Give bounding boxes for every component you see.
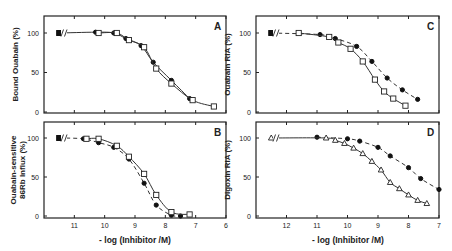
x-tick-label: 12	[283, 222, 291, 229]
data-point-open-square	[327, 34, 332, 39]
data-point-filled-circle	[376, 145, 380, 149]
plot-frame	[44, 16, 226, 113]
y-axis-label: Ouabain-sensitive86Rb Influx (%)	[9, 135, 27, 204]
series-curve	[271, 138, 427, 204]
data-point-open-square	[154, 66, 159, 71]
data-point-open-square	[96, 30, 101, 35]
x-tick-label: 7	[437, 222, 441, 229]
x-tick-label: 9	[133, 222, 137, 229]
data-point-open-square	[382, 89, 387, 94]
y-tick-label: 50	[243, 174, 251, 181]
data-point-filled-circle	[419, 176, 423, 180]
data-point-filled-circle	[400, 88, 404, 92]
series-curve	[271, 33, 417, 99]
y-tick-label: 100	[239, 135, 251, 142]
data-point-open-square	[360, 59, 365, 64]
x-tick-label: 7	[194, 222, 198, 229]
y-tick-label: 50	[243, 69, 251, 76]
y-tick-label: 0	[35, 213, 39, 220]
y-tick-label: 50	[31, 174, 39, 181]
data-point-open-square	[372, 77, 377, 82]
x-tick-label: 8	[163, 222, 167, 229]
data-point-filled-circle	[385, 76, 389, 80]
data-point-open-square	[154, 192, 159, 197]
panel-letter: A	[214, 21, 221, 32]
x-tick-label: 6	[224, 222, 228, 229]
plot-frame	[256, 16, 439, 113]
plot-frame	[44, 122, 226, 218]
y-tick-label: 0	[247, 109, 251, 116]
data-point-filled-circle	[437, 187, 441, 191]
series-curve	[59, 32, 189, 98]
x-tick-label: 11	[313, 222, 320, 229]
data-point-open-square	[211, 104, 216, 109]
panel-letter: D	[427, 127, 434, 138]
x-tick-label: 11	[71, 222, 78, 229]
panel-a: 050100Bound Ouabain (%)A	[11, 16, 226, 116]
data-point-open-square	[142, 45, 147, 50]
data-point-filled-circle	[388, 154, 392, 158]
x-tick-label: 9	[376, 222, 380, 229]
y-tick-label: 100	[27, 30, 39, 37]
y-axis-label: Digoxin RIA (%)	[223, 140, 232, 200]
series-curve	[59, 138, 180, 216]
data-point-open-square	[296, 30, 301, 35]
y-tick-label: 100	[27, 135, 39, 142]
data-point-open-square	[126, 154, 131, 159]
data-point-open-square	[336, 40, 341, 45]
data-point-open-square	[126, 38, 131, 43]
data-point-filled-circle	[416, 97, 420, 101]
data-point-filled-circle	[355, 44, 359, 48]
data-point-open-square	[391, 96, 396, 101]
data-point-open-square	[348, 46, 353, 51]
series-curve	[86, 138, 189, 214]
data-point-filled-circle	[370, 59, 374, 63]
panel-letter: C	[427, 21, 434, 32]
data-point-filled-circle	[406, 166, 410, 170]
data-point-open-triangle	[360, 151, 366, 156]
data-point-open-square	[84, 136, 89, 141]
x-axis-title-left: - log (Inhibitor /M)	[99, 235, 171, 245]
data-point-open-square	[142, 171, 147, 176]
data-point-filled-circle	[345, 137, 349, 141]
panel-letter: B	[214, 127, 221, 138]
x-tick-label: 8	[407, 222, 411, 229]
data-point-open-square	[114, 143, 119, 148]
data-point-open-triangle	[397, 186, 403, 191]
data-point-open-square	[187, 212, 192, 217]
data-point-filled-circle	[358, 139, 362, 143]
y-axis-label: Ouabain RIA (%)	[223, 33, 232, 96]
figure: 050100Bound Ouabain (%)A 11109876050100O…	[0, 0, 452, 251]
x-tick-label: 10	[101, 222, 109, 229]
data-point-filled-square	[57, 136, 62, 141]
y-tick-label: 100	[239, 30, 251, 37]
panel-b: 11109876050100Ouabain-sensitive86Rb Infl…	[9, 122, 228, 229]
data-point-open-square	[403, 103, 408, 108]
data-point-open-square	[190, 98, 195, 103]
data-point-filled-circle	[142, 181, 146, 185]
data-point-open-square	[169, 210, 174, 215]
data-point-open-square	[169, 81, 174, 86]
y-tick-label: 50	[31, 69, 39, 76]
y-tick-label: 0	[35, 109, 39, 116]
panel-c: 050100Ouabain RIA (%)C	[223, 16, 439, 116]
data-point-open-square	[96, 136, 101, 141]
y-tick-label: 0	[247, 213, 251, 220]
x-axis-title-right: - log (Inhibitor /M)	[312, 235, 384, 245]
data-point-open-square	[114, 30, 119, 35]
data-point-open-triangle	[406, 192, 412, 197]
data-point-filled-circle	[154, 203, 158, 207]
y-axis-label: Bound Ouabain (%)	[11, 27, 20, 102]
data-point-filled-square	[57, 31, 62, 36]
series-curve	[299, 33, 406, 106]
data-point-open-triangle	[351, 145, 357, 150]
panel-d: 121110987050100Digoxin RIA (%)D	[223, 122, 441, 229]
x-tick-label: 10	[344, 222, 352, 229]
data-point-filled-circle	[315, 135, 319, 139]
